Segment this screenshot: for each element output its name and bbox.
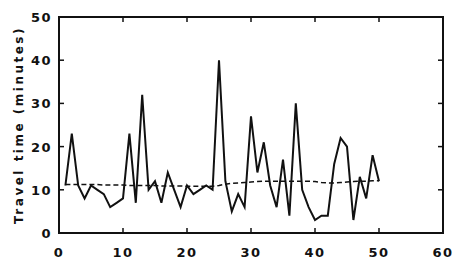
travel-time-series-line	[65, 60, 379, 220]
y-tick-label: 50	[31, 10, 52, 25]
y-tick-label: 10	[31, 183, 52, 198]
y-axis-tick-labels: 01020304050	[31, 10, 52, 241]
line-chart: 0102030405060 01020304050 Travel time (m…	[0, 0, 453, 272]
y-tick-label: 40	[31, 53, 52, 68]
x-axis-tick-labels: 0102030405060	[54, 245, 453, 260]
y-tick-label: 20	[31, 140, 52, 155]
x-tick-label: 60	[432, 245, 453, 260]
x-tick-label: 40	[304, 245, 325, 260]
x-tick-label: 0	[54, 245, 65, 260]
x-tick-label: 50	[368, 245, 389, 260]
y-tick-label: 0	[41, 226, 52, 241]
x-tick-label: 30	[240, 245, 261, 260]
y-axis-title: Travel time (minutes)	[12, 26, 26, 224]
x-tick-label: 20	[176, 245, 197, 260]
y-tick-label: 30	[31, 96, 52, 111]
x-tick-label: 10	[112, 245, 133, 260]
